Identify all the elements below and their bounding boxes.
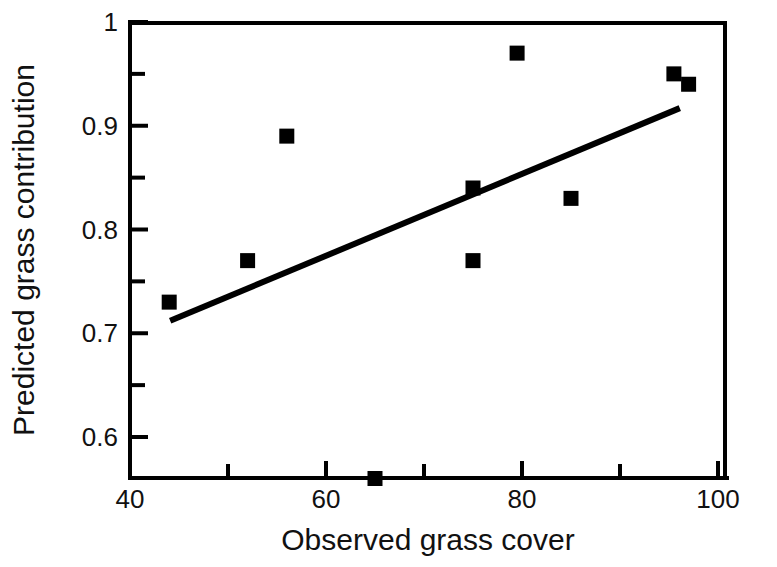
y-axis-title: Predicted grass contribution <box>7 64 40 436</box>
x-axis-title: Observed grass cover <box>281 523 574 556</box>
y-tick-label: 0.8 <box>82 215 118 245</box>
data-point-marker <box>666 66 681 81</box>
x-tick-label: 100 <box>696 484 739 514</box>
y-tick-label: 0.7 <box>82 318 118 348</box>
x-tick-label: 60 <box>312 484 341 514</box>
data-point-marker <box>681 77 696 92</box>
y-tick-label: 0.9 <box>82 111 118 141</box>
data-point-marker <box>368 471 383 486</box>
data-point-marker <box>466 253 481 268</box>
data-point-marker <box>466 181 481 196</box>
y-tick-label: 0.6 <box>82 422 118 452</box>
x-tick-label: 40 <box>116 484 145 514</box>
data-point-marker <box>510 46 525 61</box>
scatter-plot: 10.90.80.70.6 406080100 Observed grass c… <box>0 0 777 567</box>
plot-background <box>0 0 777 567</box>
data-point-marker <box>279 129 294 144</box>
data-point-marker <box>240 253 255 268</box>
y-tick-label: 1 <box>104 7 118 37</box>
data-point-marker <box>162 295 177 310</box>
x-tick-label: 80 <box>508 484 537 514</box>
data-point-marker <box>564 191 579 206</box>
figure-container: 10.90.80.70.6 406080100 Observed grass c… <box>0 0 777 567</box>
